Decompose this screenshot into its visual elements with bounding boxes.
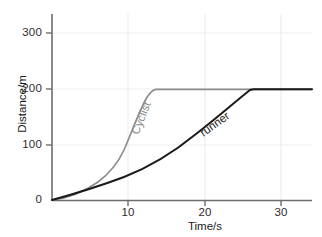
distance-time-chart: 300 200 100 0 10 20 30 Distance/m Time/s…	[0, 0, 322, 237]
x-axis-title: Time/s	[155, 220, 255, 232]
y-tick-label-0: 0	[2, 193, 42, 205]
x-tick-label-10: 10	[113, 206, 143, 218]
y-tick-marks	[46, 33, 52, 145]
plot-area	[0, 0, 322, 237]
gridlines	[52, 14, 312, 200]
x-tick-label-20: 20	[190, 206, 220, 218]
y-axis-title: Distance/m	[16, 54, 28, 154]
y-tick-label-300: 300	[2, 26, 42, 38]
x-tick-label-30: 30	[266, 206, 296, 218]
